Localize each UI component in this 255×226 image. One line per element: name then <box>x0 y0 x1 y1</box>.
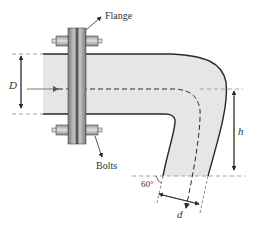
flange-label: Flange <box>105 10 133 21</box>
inlet-diameter-label: D <box>8 79 17 91</box>
bolts-label: Bolts <box>96 160 117 171</box>
outlet-right-extension <box>200 176 208 213</box>
angle-arc <box>156 176 161 183</box>
angle-label: 60° <box>141 179 154 189</box>
outlet-diameter-label: d <box>177 208 183 220</box>
flange-leader <box>86 17 101 30</box>
bolts-leader <box>95 136 102 157</box>
pipe-diagram: D Flange Bolts h d 60° <box>0 0 255 226</box>
height-label: h <box>238 125 244 137</box>
outlet-diameter-arrow-back <box>159 194 199 204</box>
